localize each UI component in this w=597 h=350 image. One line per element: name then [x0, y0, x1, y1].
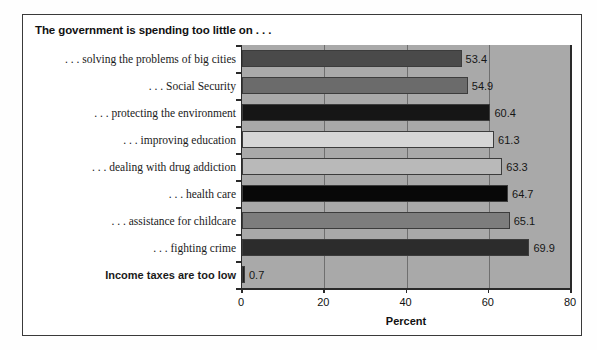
- bar-value-label: 60.4: [494, 107, 515, 119]
- plot-right-edge: [570, 45, 572, 288]
- x-tick-label-0: 0: [238, 296, 244, 308]
- category-label: . . . fighting crime: [31, 242, 236, 254]
- y-tick-mark-8: [236, 261, 241, 263]
- category-label: . . . solving the problems of big cities: [31, 53, 236, 65]
- bar-value-label: 69.9: [533, 242, 554, 254]
- x-tick-label-40: 40: [399, 296, 411, 308]
- category-label: . . . health care: [31, 188, 236, 200]
- bar: [242, 158, 502, 175]
- category-label: . . . dealing with drug addiction: [31, 161, 236, 173]
- category-label: . . . improving education: [31, 134, 236, 146]
- bar-value-label: 63.3: [506, 161, 527, 173]
- bar: [242, 239, 529, 256]
- bar-value-label: 54.9: [472, 80, 493, 92]
- y-tick-mark-6: [236, 207, 241, 209]
- x-tick-mark-80: [570, 288, 572, 293]
- bar: [242, 212, 510, 229]
- x-tick-mark-60: [488, 288, 490, 293]
- y-tick-mark-5: [236, 180, 241, 182]
- y-tick-mark-2: [236, 99, 241, 101]
- bar-value-label: 64.7: [512, 188, 533, 200]
- category-label: . . . assistance for childcare: [31, 215, 236, 227]
- bar: [242, 266, 245, 283]
- bar-value-label: 65.1: [514, 215, 535, 227]
- y-tick-mark-7: [236, 234, 241, 236]
- chart-figure: The government is spending too little on…: [0, 0, 597, 350]
- category-label: Income taxes are too low: [31, 269, 236, 281]
- x-tick-mark-40: [406, 288, 408, 293]
- x-tick-label-60: 60: [482, 296, 494, 308]
- y-tick-mark-4: [236, 153, 241, 155]
- bar-value-label: 53.4: [466, 53, 487, 65]
- bar: [242, 185, 508, 202]
- bar: [242, 131, 494, 148]
- y-tick-mark-3: [236, 126, 241, 128]
- bar-value-label: 61.3: [498, 134, 519, 146]
- x-tick-mark-0: [241, 288, 243, 293]
- bar: [242, 104, 490, 121]
- x-axis-title: Percent: [241, 315, 571, 327]
- category-label: . . . Social Security: [31, 80, 236, 92]
- category-labels: . . . solving the problems of big cities…: [31, 0, 236, 350]
- category-label: . . . protecting the environment: [31, 107, 236, 119]
- y-tick-mark-end: [236, 288, 241, 290]
- bar: [242, 50, 462, 67]
- y-tick-mark-0: [236, 45, 241, 47]
- x-tick-mark-20: [323, 288, 325, 293]
- y-tick-mark-1: [236, 72, 241, 74]
- x-tick-label-80: 80: [564, 296, 576, 308]
- bar-value-label: 0.7: [249, 269, 264, 281]
- bar: [242, 77, 468, 94]
- x-tick-label-20: 20: [317, 296, 329, 308]
